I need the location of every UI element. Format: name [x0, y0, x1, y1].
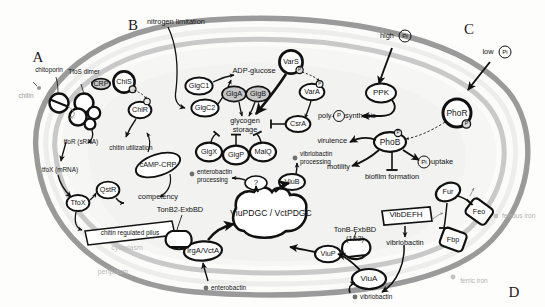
viup-label: ViuP: [320, 250, 335, 258]
adp-glucose-label: ADP-glucose: [232, 67, 275, 75]
phob-phospho-label: P: [396, 131, 399, 136]
chitoporin-barrel: [50, 94, 69, 113]
poly-p-synthesis-suffix: synthesis: [345, 112, 376, 120]
vibriobactin-processing-line2: processing: [300, 159, 331, 166]
tfos-dimer-label: TfoS dimer: [68, 69, 99, 76]
panel-letter-a: A: [33, 50, 44, 66]
ferrous-iron-label: ferrous iron: [502, 213, 535, 220]
ferric-iron-label: ferric iron: [460, 278, 487, 285]
glga-label: GlgA: [226, 90, 242, 98]
competency-label: competency: [138, 193, 178, 201]
chitin-label: chitin: [19, 93, 34, 100]
vars-label: VarS: [283, 58, 298, 66]
figure-canvas: A B C D cytoplasm periplasm chitin chito…: [0, 0, 545, 307]
chis-label: ChiS: [116, 78, 132, 86]
glgb-label: GlgB: [250, 90, 266, 98]
pi-uptake-label: uptake: [431, 158, 453, 166]
panel-letter-c: C: [464, 22, 474, 38]
csra-label: CsrA: [290, 120, 306, 128]
chitin-regulated-pilus-label: chitin regulated pilus: [101, 230, 159, 237]
poly-p-synthesis-prefix: poly-: [318, 112, 334, 120]
high-pi-symbol: Pi: [399, 30, 412, 43]
ppk-label: PPK: [373, 89, 389, 97]
high-pi-label: high: [380, 32, 394, 40]
phob-label: PhoB: [380, 138, 401, 147]
tfor-srna-label: tfoR (sRNA): [64, 139, 98, 146]
tonb-exbbd-line1: TonB-ExbBD: [334, 226, 376, 234]
viua-label: ViuA: [361, 275, 378, 283]
poly-p-symbol: P: [333, 110, 345, 122]
camp-crp-label: cAMP-CRP: [140, 161, 177, 169]
viupdgc-label: ViuPDGC / VctPDGC: [230, 209, 312, 218]
panel-letter-b: B: [128, 18, 138, 34]
phor-label: PhoR: [447, 109, 468, 118]
fur-label: Fur: [443, 188, 454, 196]
glgc2-label: GlgC2: [195, 104, 215, 112]
pathway-vector-layer: [0, 0, 545, 307]
biofilm-formation-label: biofilm formation: [365, 173, 419, 181]
chir-label: ChiR: [132, 106, 148, 114]
malq-label: MalQ: [254, 148, 271, 156]
enterobactin-label: enterobactin: [211, 285, 246, 292]
unknown-label: ?: [254, 179, 258, 187]
chitin-utilization-label: chitin utilization: [109, 145, 152, 152]
glgx-label: GlgX: [201, 148, 217, 156]
panel-letter-d: D: [509, 285, 520, 301]
vibriobactin-cytoplasm-label: vibriobactin: [386, 239, 423, 247]
vara-phospho-label: P: [318, 82, 321, 87]
fbp-label: Fbp: [447, 236, 459, 244]
tonb-exbbd-line2: (1&2): [346, 235, 364, 243]
glycogen-storage-label-line1: glycogen: [230, 117, 260, 125]
glgp-label: GlgP: [228, 151, 244, 159]
crp-label: CRP: [93, 80, 108, 88]
chitoporin-label: chitoporin: [35, 67, 63, 74]
vibdefh-label: VibDEFH: [389, 211, 422, 219]
vibriobactin-processing-line1: vibriobactin: [300, 151, 332, 158]
vibriobactin-external-label: vibriobactin: [360, 294, 392, 301]
virulence-label: virulence: [317, 137, 347, 145]
tfox-label: TfoX: [70, 199, 85, 207]
cytoplasm-label: cytoplasm: [111, 244, 143, 251]
nitrogen-limitation-label: nitrogen limitation: [147, 18, 205, 26]
low-pi-label: low: [482, 48, 493, 56]
irga-vcta-label: IrgA/VctA: [187, 247, 219, 255]
glgc1-label: GlgC1: [189, 82, 209, 90]
vara-label: VarA: [304, 88, 319, 96]
glycogen-storage-label-line2: storage: [233, 126, 258, 134]
phor-phospho-label: P: [465, 121, 468, 126]
vars-phospho-label: P: [298, 68, 301, 73]
qstr-label: QstR: [100, 186, 116, 194]
pi-uptake-symbol: Pi: [418, 156, 431, 169]
low-pi-symbol: Pi: [499, 46, 512, 59]
enterobactin-processing-line1: enterobactin: [197, 169, 232, 176]
feo-label: Feo: [473, 208, 485, 216]
tfox-mrna-label: tfoX (mRNA): [42, 167, 78, 174]
tonb2-exbbd-label: TonB2-ExbBD: [157, 206, 203, 214]
viub-label: ViuB: [284, 178, 299, 186]
periplasm-label: periplasm: [98, 268, 128, 275]
enterobactin-processing-line2: processing: [197, 177, 228, 184]
